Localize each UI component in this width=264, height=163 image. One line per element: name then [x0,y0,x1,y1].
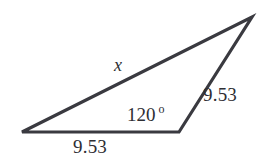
side-length-label-right: 9.53 [203,85,237,104]
angle-value-text: 120 [127,104,156,125]
obtuse-triangle-figure: 9.53 9.53 x 120o [0,0,264,163]
unknown-side-label-x: x [114,56,122,74]
triangle-shape [0,0,264,163]
degree-symbol-icon: o [159,102,165,116]
interior-angle-label: 120o [127,104,162,124]
side-length-label-bottom: 9.53 [73,137,107,156]
